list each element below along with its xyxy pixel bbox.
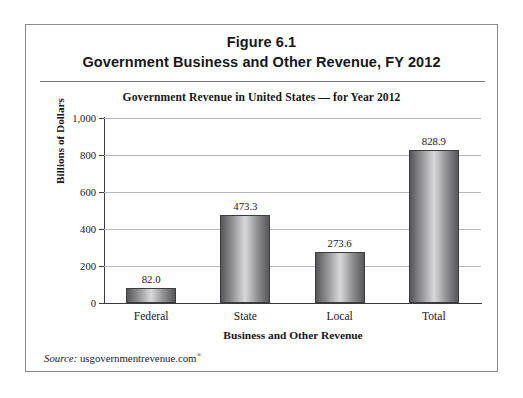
source-note: Source: usgovernmentrevenue.com® <box>44 351 201 364</box>
source-superscript: ® <box>197 351 202 358</box>
x-axis-title: Business and Other Revenue <box>104 329 482 341</box>
y-tick-mark-800 <box>99 155 104 156</box>
bar-local <box>315 252 365 303</box>
y-tick-mark-600 <box>99 192 104 193</box>
y-tick-mark-400 <box>99 229 104 230</box>
x-tick-label-federal: Federal <box>134 310 169 323</box>
y-tick-mark-1000 <box>99 118 104 119</box>
x-tick-label-total: Total <box>422 310 446 323</box>
y-tick-label-0: 0 <box>91 298 96 309</box>
y-tick-mark-200 <box>99 266 104 267</box>
source-label: Source: <box>44 352 77 364</box>
gridline-1000 <box>104 118 481 119</box>
y-tick-mark-0 <box>99 303 104 304</box>
gridline-0 <box>104 303 481 304</box>
chart-plot: Billions of Dollars 02004006008001,00082… <box>26 25 499 373</box>
y-tick-label-600: 600 <box>80 187 96 198</box>
bar-value-total: 828.9 <box>422 135 446 147</box>
bar-value-state: 473.3 <box>233 200 257 212</box>
x-tick-label-local: Local <box>326 310 352 323</box>
bar-federal <box>126 288 176 303</box>
bar-value-federal: 82.0 <box>142 273 161 285</box>
plot-area: 02004006008001,00082.0473.3273.6828.9 <box>104 118 481 303</box>
bar-state <box>220 215 270 303</box>
figure-root: Figure 6.1 Government Business and Other… <box>0 0 523 398</box>
x-tick-label-state: State <box>234 310 257 323</box>
source-text: usgovernmentrevenue.com <box>80 352 197 364</box>
bar-value-local: 273.6 <box>327 237 351 249</box>
figure-frame: Figure 6.1 Government Business and Other… <box>25 24 498 372</box>
y-tick-label-400: 400 <box>80 224 96 235</box>
y-axis-title: Billions of Dollars <box>54 71 66 211</box>
y-tick-label-800: 800 <box>80 150 96 161</box>
y-tick-label-1000: 1,000 <box>72 113 96 124</box>
y-tick-label-200: 200 <box>80 261 96 272</box>
bar-total <box>409 150 459 303</box>
